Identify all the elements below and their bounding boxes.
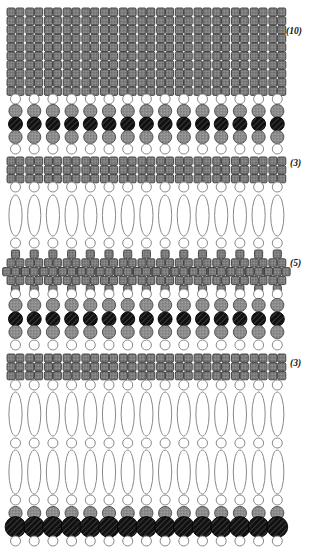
open-circle (160, 238, 170, 248)
square-cell (63, 363, 71, 371)
square-cell (222, 175, 230, 183)
square-cell (16, 26, 24, 34)
grey-circle (252, 298, 265, 311)
open-circle (254, 182, 264, 192)
grey-circle (140, 325, 153, 338)
square-cell (203, 70, 211, 78)
square-cell (7, 26, 15, 34)
square-cell (157, 78, 165, 86)
open-circle (48, 536, 58, 546)
square-cell (82, 354, 90, 362)
open-circle (29, 536, 39, 546)
open-circle (272, 289, 282, 299)
black-hatched-circle (83, 117, 97, 131)
open-circle (123, 536, 133, 546)
black-hatched-circle (270, 312, 284, 326)
square-cell (259, 52, 267, 60)
grey-circle (84, 298, 97, 311)
column-15-squares (269, 354, 286, 380)
open-circle (104, 144, 114, 154)
grey-circle (121, 298, 134, 311)
black-hatched-circle (65, 117, 79, 131)
open-circle (11, 495, 21, 505)
grey-circle (196, 130, 209, 143)
square-cell (138, 175, 146, 183)
grey-circle (177, 325, 190, 338)
square-cell (231, 157, 239, 165)
square-cell (128, 26, 136, 34)
square-cell (222, 8, 230, 16)
open-circle (198, 495, 208, 505)
band-open-circle-row-3 (11, 182, 283, 192)
open-circle (254, 289, 264, 299)
square-cell (101, 157, 109, 165)
square-cell (138, 78, 146, 86)
open-circle (104, 380, 114, 390)
grey-circle (159, 298, 172, 311)
open-circle (179, 94, 189, 104)
count-10-label: (10) (286, 26, 302, 37)
square-cell (82, 259, 90, 267)
square-cell (175, 34, 183, 42)
column-2-squares (26, 157, 43, 183)
square-cell (278, 157, 286, 165)
open-circle (235, 536, 245, 546)
square-cell (91, 52, 99, 60)
square-cell (16, 70, 24, 78)
square-cell (157, 157, 165, 165)
square-cell (278, 8, 286, 16)
square-cell (250, 78, 258, 86)
grey-circle (252, 130, 265, 143)
square-cell (53, 70, 61, 78)
square-cell (26, 52, 34, 60)
square-cell (26, 175, 34, 183)
square-cell (119, 259, 127, 267)
square-cell (72, 157, 80, 165)
square-cell (222, 34, 230, 42)
square-cell (278, 78, 286, 86)
square-cell (26, 372, 34, 380)
square-cell (213, 372, 221, 380)
square-cell (63, 43, 71, 51)
square-cell (53, 78, 61, 86)
black-hatched-circle-large (267, 517, 288, 538)
square-cell (138, 276, 146, 284)
square-cell (109, 363, 117, 371)
square-cell (82, 363, 90, 371)
square-cell (91, 175, 99, 183)
square-cell (203, 363, 211, 371)
square-cell (128, 70, 136, 78)
grey-circle (140, 130, 153, 143)
square-cell (217, 250, 225, 258)
square-cell (157, 372, 165, 380)
tall-ellipse (46, 450, 59, 494)
black-hatched-circle-large (192, 517, 213, 538)
square-cell (147, 259, 155, 267)
square-cell (128, 175, 136, 183)
square-cell (128, 276, 136, 284)
grey-circle (215, 325, 228, 338)
open-circle (141, 289, 151, 299)
tall-ellipse (252, 450, 265, 494)
square-cell (82, 70, 90, 78)
open-circle (235, 238, 245, 248)
grey-circle (215, 298, 228, 311)
square-cell (278, 52, 286, 60)
square-cell (16, 43, 24, 51)
black-hatched-circle (177, 312, 191, 326)
square-cell (82, 157, 90, 165)
square-cell (203, 372, 211, 380)
square-cell (231, 78, 239, 86)
open-circle (29, 438, 39, 448)
square-cell (203, 354, 211, 362)
square-cell (35, 61, 43, 69)
square-cell (44, 61, 52, 69)
square-cell (222, 70, 230, 78)
square-cell (138, 363, 146, 371)
grey-circle (215, 130, 228, 143)
square-cell (165, 354, 173, 362)
square-cell (147, 372, 155, 380)
column-12-squares (213, 354, 230, 380)
square-cell (147, 175, 155, 183)
square-cell (240, 157, 248, 165)
